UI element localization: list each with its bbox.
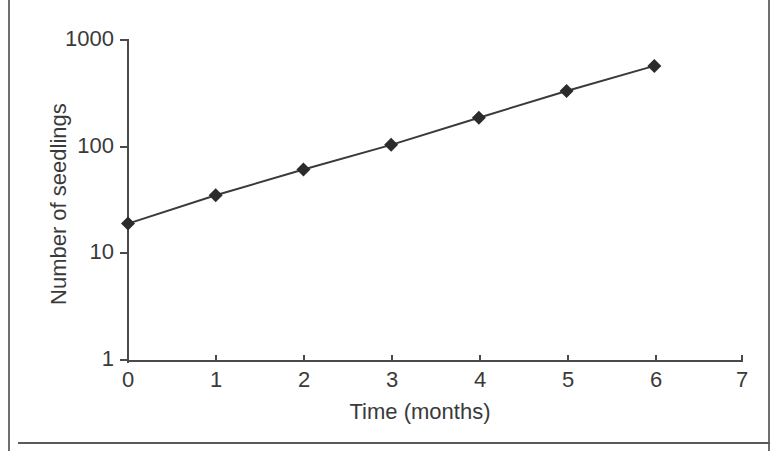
data-point-marker: [296, 163, 310, 177]
plot-area: [0, 0, 779, 451]
data-point-marker: [472, 111, 486, 125]
x-axis-title: Time (months): [260, 400, 580, 424]
data-point-marker: [560, 84, 574, 98]
line-chart: 1000 100 10 1 0 1 2 3 4 5 6 7 Time (mo: [0, 0, 779, 451]
figure-page: 1000 100 10 1 0 1 2 3 4 5 6 7 Time (mo: [0, 0, 779, 451]
data-point-marker: [121, 217, 135, 231]
series-markers: [121, 59, 661, 231]
data-point-marker: [209, 188, 223, 202]
data-point-marker: [647, 59, 661, 73]
data-point-marker: [384, 138, 398, 152]
y-axis-title: Number of seedlings: [47, 79, 71, 329]
